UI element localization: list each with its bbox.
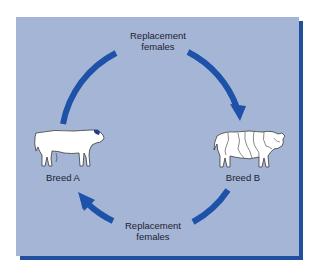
spotted-bull-icon — [214, 131, 285, 167]
edge-label-bottom: Replacement females — [113, 220, 193, 242]
breed-a-label: Breed A — [38, 172, 88, 183]
arrow-bottom-left-icon — [78, 192, 113, 221]
arrow-top-right-icon — [188, 52, 246, 121]
breed-b-label: Breed B — [218, 172, 268, 183]
edge-label-bottom-line2: females — [113, 231, 193, 242]
edge-label-bottom-line1: Replacement — [113, 220, 193, 231]
arc-top-left — [63, 53, 116, 124]
edge-label-top-line2: females — [118, 41, 198, 52]
arc-bottom-right — [193, 190, 228, 222]
node-label-breed-b: Breed B — [218, 172, 268, 183]
white-bull-icon — [35, 130, 104, 166]
node-label-breed-a: Breed A — [38, 172, 88, 183]
edge-label-top-line1: Replacement — [118, 30, 198, 41]
edge-label-top: Replacement females — [118, 30, 198, 52]
